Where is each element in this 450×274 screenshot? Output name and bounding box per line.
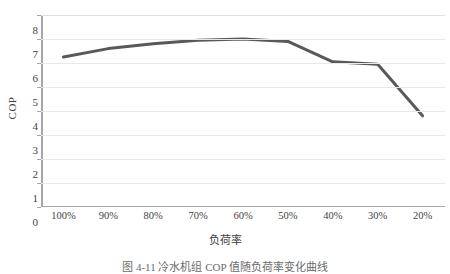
y-tick-mark [37, 39, 41, 40]
series-polyline [63, 39, 422, 116]
y-tick-mark [37, 207, 41, 208]
x-tick-label: 40% [323, 211, 342, 222]
y-tick-label: 5 [20, 97, 38, 108]
y-axis-title: COP [2, 0, 22, 215]
y-tick-mark [37, 87, 41, 88]
gridline [41, 15, 445, 16]
x-tick-label: 60% [233, 211, 252, 222]
y-tick-mark [37, 111, 41, 112]
y-tick-mark [37, 15, 41, 16]
x-axis-title-text: 负荷率 [209, 234, 242, 246]
gridline [41, 39, 445, 40]
gridline [41, 135, 445, 136]
gridline [41, 183, 445, 184]
y-tick-label: 8 [20, 25, 38, 36]
y-tick-label: 1 [20, 193, 38, 204]
x-tick-label: 50% [278, 211, 297, 222]
gridline [41, 63, 445, 64]
x-tick-label: 90% [99, 211, 118, 222]
x-tick-label: 20% [413, 211, 432, 222]
x-tick-label: 100% [51, 211, 76, 222]
x-axis-title: 负荷率 [0, 231, 450, 247]
y-tick-label: 7 [20, 49, 38, 60]
x-axis-tick-labels: 100%90%80%70%60%50%40%30%20% [41, 211, 445, 227]
chart-figure: COP 012345678 100%90%80%70%60%50%40%30%2… [0, 0, 450, 274]
gridline [41, 87, 445, 88]
y-axis-title-text: COP [6, 96, 18, 119]
gridline [41, 159, 445, 160]
gridline [41, 111, 445, 112]
y-tick-mark [37, 183, 41, 184]
y-tick-mark [37, 135, 41, 136]
y-tick-mark [37, 63, 41, 64]
y-axis-tick-labels: 012345678 [20, 15, 38, 207]
y-tick-label: 3 [20, 145, 38, 156]
figure-caption: 图 4-11 冷水机组 COP 值随负荷率变化曲线 [0, 258, 450, 274]
x-tick-label: 80% [144, 211, 163, 222]
plot-area [41, 15, 445, 207]
y-tick-mark [37, 159, 41, 160]
y-tick-label: 6 [20, 73, 38, 84]
y-tick-label: 0 [20, 217, 38, 228]
y-tick-label: 2 [20, 169, 38, 180]
y-tick-label: 4 [20, 121, 38, 132]
x-tick-label: 70% [188, 211, 207, 222]
x-tick-label: 30% [368, 211, 387, 222]
